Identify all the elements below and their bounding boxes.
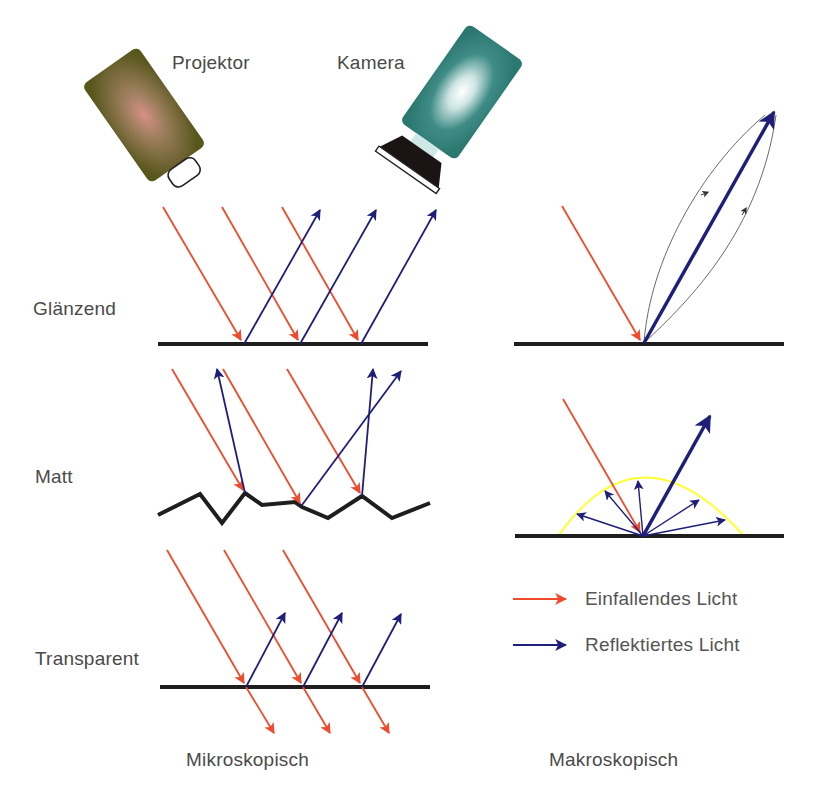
matte-macro [515, 399, 784, 536]
row-label-matte: Matt [35, 466, 73, 488]
camera-icon [375, 22, 526, 194]
transparent-micro [160, 550, 430, 733]
row-label-transparent: Transparent [35, 648, 139, 670]
row-label-glossy: Glänzend [33, 298, 116, 320]
matte-micro [158, 369, 430, 523]
column-label-macro: Makroskopisch [549, 749, 678, 771]
legend-reflected-label: Reflektiertes Licht [585, 634, 740, 656]
reflection-diagram [0, 0, 816, 790]
column-label-micro: Mikroskopisch [186, 749, 309, 771]
projector-label: Projektor [172, 52, 250, 74]
legend-incident-label: Einfallendes Licht [585, 588, 738, 610]
legend [513, 599, 566, 645]
glossy-macro [514, 112, 784, 344]
camera-label: Kamera [337, 52, 405, 74]
glossy-micro [158, 207, 436, 344]
